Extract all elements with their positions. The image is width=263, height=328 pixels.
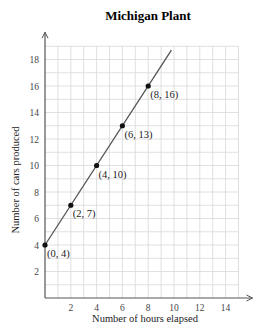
x-tick-label: 14 — [221, 303, 231, 313]
data-point — [120, 123, 125, 128]
y-tick-label: 6 — [34, 214, 39, 224]
y-axis-label: Number of cars produced — [10, 126, 21, 234]
trend-line — [45, 50, 171, 245]
data-point — [94, 163, 99, 168]
x-tick-label: 12 — [195, 303, 205, 313]
y-tick-label: 10 — [30, 161, 40, 171]
y-axis-ticks: 24681012141618 — [30, 55, 40, 277]
y-tick-label: 2 — [34, 267, 39, 277]
x-tick-label: 6 — [120, 303, 125, 313]
x-tick-label: 10 — [169, 303, 179, 313]
data-point-label: (2, 7) — [73, 208, 96, 220]
data-point — [42, 242, 47, 247]
x-axis-ticks: 2468101214 — [68, 303, 230, 313]
y-tick-label: 16 — [30, 82, 40, 92]
x-tick-label: 2 — [68, 303, 73, 313]
data-point-label: (0, 4) — [47, 248, 70, 260]
grid-lines — [45, 46, 239, 298]
x-tick-label: 4 — [94, 303, 99, 313]
data-point-label: (4, 10) — [99, 169, 127, 181]
x-axis-label: Number of hours elapsed — [92, 313, 199, 324]
line-chart: Michigan Plant 2468101214 24681012141618… — [0, 0, 263, 328]
data-point-label: (6, 13) — [124, 129, 152, 141]
y-tick-label: 4 — [34, 241, 39, 251]
y-tick-label: 8 — [34, 188, 39, 198]
data-point — [146, 83, 151, 88]
y-tick-label: 18 — [30, 55, 40, 65]
data-point-label: (8, 16) — [150, 89, 178, 101]
chart-title: Michigan Plant — [105, 8, 191, 23]
data-point — [68, 203, 73, 208]
data-series: (0, 4)(2, 7)(4, 10)(6, 13)(8, 16) — [42, 50, 178, 260]
x-tick-label: 8 — [146, 303, 151, 313]
y-tick-label: 14 — [30, 108, 40, 118]
y-tick-label: 12 — [30, 135, 40, 145]
